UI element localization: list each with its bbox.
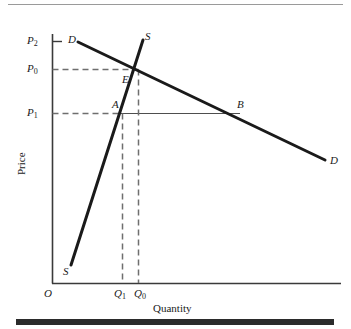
curve-label-supply-upper: S — [145, 31, 151, 42]
axis-label-p0: P0 — [27, 63, 38, 76]
bottom-bar — [16, 319, 334, 325]
axis-label-q1: Q1 — [114, 288, 126, 301]
axis-label-q0: Q0 — [134, 288, 146, 301]
supply-demand-figure: P2 P0 P1 O Q1 Q0 D D S S E A B Price Qua… — [0, 0, 351, 329]
curve-label-supply-lower: S — [63, 266, 69, 277]
y-axis-title: Price — [16, 152, 27, 175]
curve-label-demand-upper: D — [68, 34, 76, 45]
x-axis-title: Quantity — [153, 303, 192, 314]
point-label-b: B — [237, 99, 244, 110]
axis-label-origin: O — [44, 288, 52, 299]
axis-label-p2: P2 — [27, 35, 38, 48]
axis-label-p1: P1 — [27, 107, 38, 120]
point-label-e: E — [122, 74, 129, 85]
curve-label-demand-lower: D — [330, 155, 338, 166]
point-label-a: A — [112, 99, 119, 110]
diagram-canvas — [0, 0, 351, 329]
supply-curve — [71, 40, 143, 265]
